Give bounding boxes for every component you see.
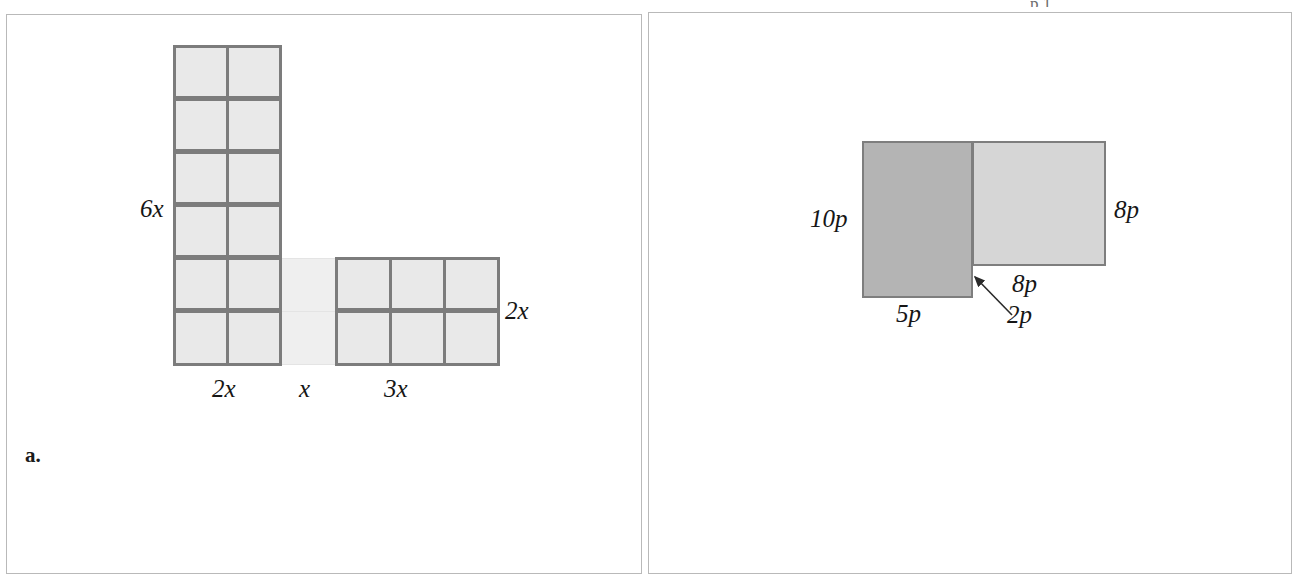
label-a-bottom-right: 3x — [384, 375, 408, 403]
tile-r2-c1 — [173, 98, 229, 152]
label-a-bottom-left: 2x — [212, 375, 236, 403]
part-letter-a: a. — [25, 443, 41, 468]
tile-r5-c4 — [335, 257, 392, 311]
tile-r6-c6 — [443, 310, 500, 366]
tile-r6-c1 — [173, 310, 229, 366]
label-b-right-height: 8p — [1114, 196, 1139, 224]
figure-a-algebra-tiles: 6x 2x x 3x 2x — [7, 15, 643, 575]
tile-r5-c6 — [443, 257, 500, 311]
tile-r5-c5 — [389, 257, 446, 311]
tile-r4-c1 — [173, 204, 229, 258]
label-b-bottom-left: 5p — [896, 300, 921, 328]
page-canvas: p 1 6x — [0, 0, 1297, 583]
tile-r3-c1 — [173, 151, 229, 205]
panel-a-frame: 6x 2x x 3x 2x a. — [6, 14, 642, 574]
tile-r6-c4 — [335, 310, 392, 366]
label-b-bottom-right: 8p — [1012, 270, 1037, 298]
tile-r4-c2 — [226, 204, 282, 258]
panel-b-frame: 10p 8p 5p 8p 2p b. — [648, 12, 1292, 574]
label-b-left-height: 10p — [810, 205, 848, 233]
label-a-right-height: 2x — [505, 297, 529, 325]
tile-r5-c1 — [173, 257, 229, 311]
label-a-left-height: 6x — [140, 195, 164, 223]
tile-r6-c5 — [389, 310, 446, 366]
label-a-bottom-middle: x — [299, 375, 310, 403]
tile-r5-c2 — [226, 257, 282, 311]
ghost-tile-r5-c3 — [278, 258, 337, 312]
ghost-tile-r6-c3 — [278, 311, 337, 365]
figure-b-rectangles: 10p 8p 5p 8p 2p — [649, 13, 1293, 575]
tile-r1-c2 — [226, 45, 282, 99]
tile-r6-c2 — [226, 310, 282, 366]
top-cut-text-remnant: p 1 — [1030, 0, 1051, 7]
callout-leader-arrow-2p — [649, 13, 1293, 575]
tile-r1-c1 — [173, 45, 229, 99]
tile-r2-c2 — [226, 98, 282, 152]
label-b-callout-2p: 2p — [1007, 301, 1032, 329]
tile-r3-c2 — [226, 151, 282, 205]
